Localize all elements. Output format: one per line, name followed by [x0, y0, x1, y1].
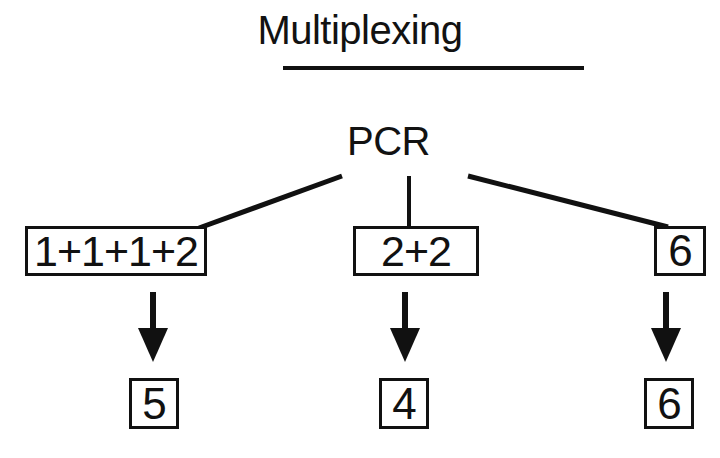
result-box-left: 5: [129, 378, 179, 429]
result-box-right: 6: [644, 378, 694, 429]
edge-pcr-to-right-pool: [468, 176, 668, 227]
edge-pcr-to-left-pool: [199, 176, 342, 228]
pool-box-middle: 2+2: [353, 226, 479, 276]
result-box-middle: 4: [379, 378, 429, 429]
page-title: Multiplexing: [0, 6, 720, 54]
arrow-head-left: [138, 328, 168, 362]
title-underline: [283, 66, 584, 70]
diagram-canvas: Multiplexing PCR 1+1+1+2 2+2 6 5 4 6: [0, 0, 720, 458]
pool-box-left: 1+1+1+2: [25, 226, 207, 276]
arrow-head-right: [651, 328, 681, 362]
pool-box-right: 6: [654, 226, 706, 276]
root-node-pcr: PCR: [347, 118, 430, 164]
arrow-head-middle: [390, 328, 420, 362]
